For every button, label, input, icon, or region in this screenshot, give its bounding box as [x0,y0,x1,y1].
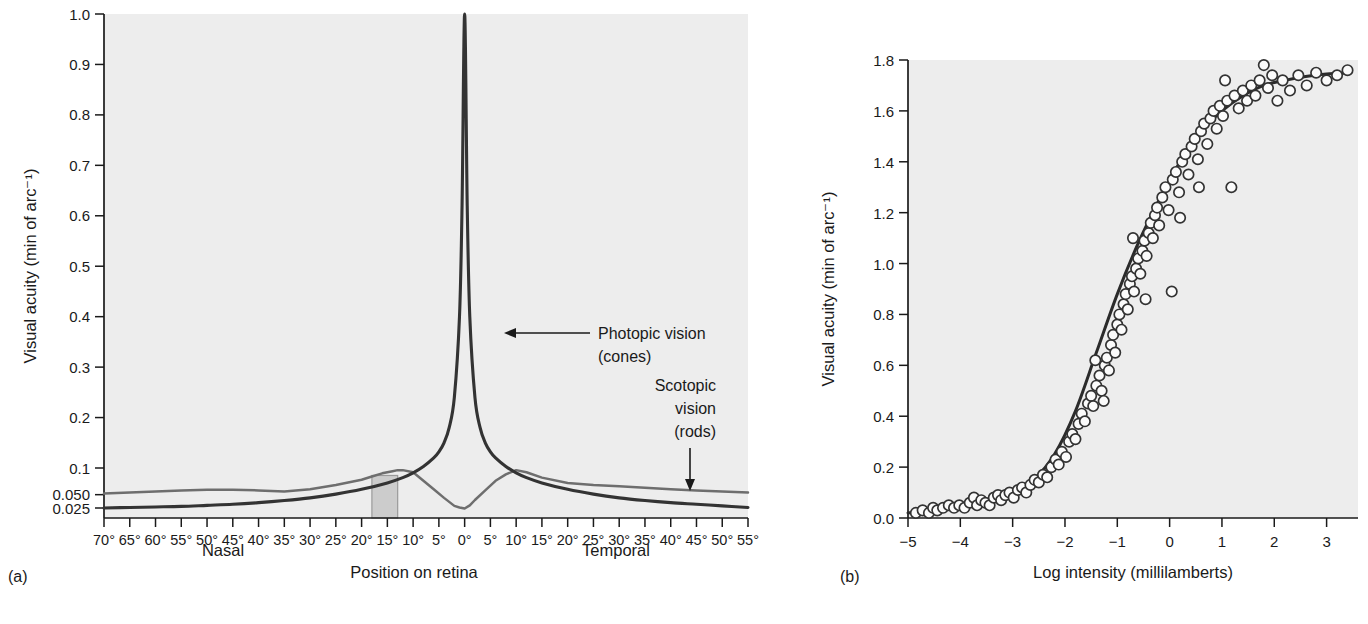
data-point [1099,396,1109,406]
panel-a-x-tick-label: 65° [119,532,141,548]
data-point [1148,233,1158,243]
panel-a-x-tick-label: 5° [483,532,497,548]
panel-b-x-tick-label: −2 [1056,533,1073,550]
panel-b-x-tick-label: −3 [1004,533,1021,550]
panel-a-x-tick-label: 0° [458,532,472,548]
data-point [1321,75,1331,85]
panel-a-x-tick-label: 70° [93,532,115,548]
data-point [1088,401,1098,411]
panel-a-x-tick-label: 40° [660,532,682,548]
data-point [1194,182,1204,192]
data-point [1254,75,1264,85]
panel-a-x-tick-label: 15° [531,532,553,548]
panel-a-visual-acuity-vs-retina-position: 1.00.90.80.70.60.50.40.30.20.10.0500.025… [0,0,800,624]
data-point [1167,286,1177,296]
panel-a-x-tick-label: 45° [686,532,708,548]
panel-b-y-tick-label: 0.8 [873,306,894,323]
panel-a-y-tick-label: 0.6 [69,207,90,224]
panel-a-y-tick-group: 1.00.90.80.70.60.50.40.30.20.10.0500.025 [52,6,104,517]
panel-a-x-tick-label: 5° [432,532,446,548]
panel-b-x-tick-label: −1 [1109,533,1126,550]
panel-b-label: (b) [840,568,860,585]
data-point [1171,167,1181,177]
data-point [1135,269,1145,279]
data-point [1263,83,1273,93]
data-point [1042,472,1052,482]
data-point [1272,96,1282,106]
panel-b-visual-acuity-vs-log-intensity: 1.81.61.41.21.00.80.60.40.20.0 −5−4−3−2−… [800,0,1368,624]
data-point [1174,187,1184,197]
data-point [1175,213,1185,223]
data-point [1183,169,1193,179]
panel-a-y-tick-label: 0.9 [69,56,90,73]
panel-b-x-tick-label: −5 [899,533,916,550]
panel-a-y-tick-label: 0.2 [69,409,90,426]
data-point [1154,220,1164,230]
data-point [1086,391,1096,401]
panel-a-nasal-label: Nasal [202,541,244,559]
panel-b-svg: 1.81.61.41.21.00.80.60.40.20.0 −5−4−3−2−… [800,0,1368,624]
panel-a-x-tick-label: 20° [557,532,579,548]
panel-b-x-axis-title: Log intensity (millilamberts) [1033,563,1233,581]
photopic-annotation-line1: Photopic vision [598,325,706,342]
data-point [1220,75,1230,85]
data-point [1234,103,1244,113]
panel-a-x-tick-label: 35° [273,532,295,548]
data-point [1212,124,1222,134]
panel-a-y-axis-title: Visual acuity (min of arc⁻¹) [21,169,39,364]
panel-a-y-tick-label: 0.4 [69,308,90,325]
data-point [1259,60,1269,70]
panel-b-y-tick-label: 1.6 [873,103,894,120]
panel-b-y-tick-label: 0.6 [873,357,894,374]
data-point [1129,286,1139,296]
data-point [1140,294,1150,304]
panel-a-y-tick-label: 0.1 [69,460,90,477]
data-point [1311,68,1321,78]
panel-a-y-tick-label: 0.025 [52,500,90,517]
panel-b-x-tick-label: 2 [1270,533,1278,550]
panel-b-y-tick-label: 1.0 [873,256,894,273]
panel-a-x-tick-label: 20° [351,532,373,548]
data-point [1157,192,1167,202]
panel-a-x-tick-label: 40° [248,532,270,548]
data-point [1277,75,1287,85]
data-point [1293,70,1303,80]
data-point [1061,452,1071,462]
panel-a-plot-background [104,14,748,518]
scotopic-annotation-line1: Scotopic [655,377,716,394]
panel-b-y-tick-label: 1.8 [873,52,894,69]
panel-a-x-tick-label: 60° [145,532,167,548]
scotopic-annotation-line3: (rods) [674,423,716,440]
data-point [1123,304,1133,314]
data-point [1302,80,1312,90]
data-point [1285,85,1295,95]
panel-a-x-tick-label: 15° [376,532,398,548]
panel-a-x-tick-label: 55° [170,532,192,548]
data-point [1332,70,1342,80]
data-point [1110,347,1120,357]
panel-a-x-axis-title: Position on retina [350,563,478,581]
data-point [1080,416,1090,426]
data-point [1096,386,1106,396]
panel-b-y-tick-group: 1.81.61.41.21.00.80.60.40.20.0 [873,52,908,527]
data-point [1163,205,1173,215]
panel-a-label: (a) [8,568,28,585]
data-point [1267,70,1277,80]
panel-a-y-tick-label: 0.7 [69,157,90,174]
figure-container: 1.00.90.80.70.60.50.40.30.20.10.0500.025… [0,0,1368,624]
panel-a-x-tick-group: 70°65°60°55°50°45°40°35°30°25°20°15°10°5… [93,518,759,548]
data-point [1116,325,1126,335]
data-point [1202,139,1212,149]
panel-b-y-tick-label: 0.4 [873,408,894,425]
data-point [1141,251,1151,261]
panel-a-x-tick-label: 55° [737,532,759,548]
data-point [1193,154,1203,164]
data-point [1152,202,1162,212]
data-point [1104,365,1114,375]
panel-a-y-tick-label: 0.5 [69,258,90,275]
panel-b-x-tick-label: 0 [1165,533,1173,550]
panel-a-y-tick-label: 1.0 [69,6,90,23]
panel-b-y-tick-label: 1.2 [873,205,894,222]
data-point [1128,233,1138,243]
data-point [1226,182,1236,192]
